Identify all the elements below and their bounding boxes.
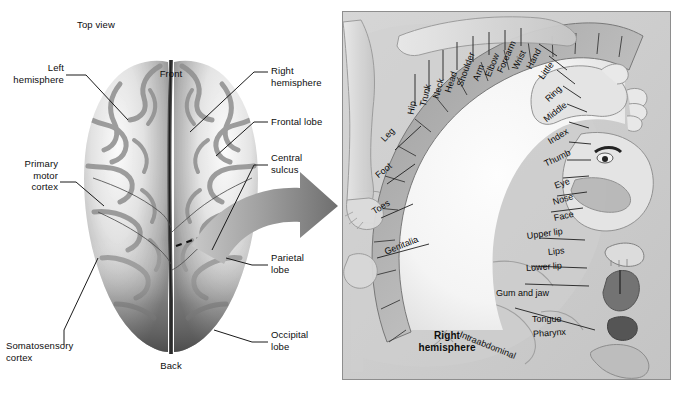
strip-label-lips: Lips <box>548 246 565 257</box>
right-panel-homunculus: Leg Foot Toes Genitalia Hip Trunk Neck H… <box>342 11 671 380</box>
label-frontal-lobe: Frontal lobe <box>271 116 343 128</box>
label-occipital-lobe: Occipital lobe <box>271 329 333 352</box>
label-somatosensory-cortex: Somatosensory cortex <box>6 340 116 363</box>
label-left-hemisphere: Left hemisphere <box>0 62 64 85</box>
view-label-top-view: Top view <box>56 19 136 31</box>
left-panel-brain-topview: Top view Left hemisphere Primary motor c… <box>0 0 342 393</box>
label-front-orientation: Front <box>136 68 206 80</box>
label-parietal-lobe: Parietal lobe <box>271 252 331 275</box>
caption-right-hemisphere: Right hemisphere <box>397 330 497 354</box>
label-primary-motor-cortex: Primary motor cortex <box>0 158 58 193</box>
label-back-orientation: Back <box>136 360 206 372</box>
strip-label-gum-and-jaw: Gum and jaw <box>496 289 549 298</box>
figure-root: Top view Left hemisphere Primary motor c… <box>0 0 676 393</box>
label-right-hemisphere: Right hemisphere <box>271 65 341 88</box>
strip-label-tongue: Tongue <box>532 315 562 324</box>
homunculus-pelvis <box>344 254 378 289</box>
label-central-sulcus: Central sulcus <box>271 152 331 175</box>
pharynx <box>607 317 637 341</box>
